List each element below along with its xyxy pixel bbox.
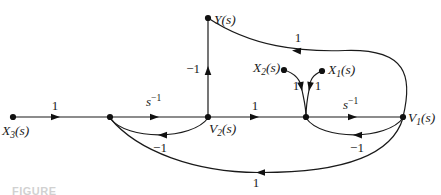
label-x1: X1(s) (327, 62, 356, 79)
node-v2 (205, 114, 211, 120)
node-x1 (319, 68, 325, 74)
gain-node1-to-v2: s−1 (146, 93, 161, 109)
gain-x2-to-node2: 1 (293, 78, 300, 93)
node-2 (303, 114, 309, 120)
gain-v2-to-node1: −1 (153, 140, 167, 155)
branch-v1-to-node2-curve (306, 118, 403, 135)
label-x2: X2(s) (252, 60, 281, 77)
branch-x1-to-node2-stem (306, 90, 309, 117)
gain-v1-to-node1: 1 (253, 175, 260, 190)
label-y: Y(s) (214, 12, 236, 27)
gain-v2-to-node2: 1 (252, 98, 259, 113)
label-v1: V1(s) (408, 110, 436, 127)
signal-flow-graph-canvas: X3(s) Y(s) V2(s) V1(s) X2(s) X1(s) 1 s−1… (0, 0, 441, 195)
node-1 (107, 114, 113, 120)
arrowhead-node1-to-v2 (150, 114, 159, 121)
arrowhead-node2-to-v1 (348, 114, 357, 121)
gain-x3-to-node1: 1 (52, 98, 59, 113)
arrowhead-v2-to-node1 (158, 132, 167, 139)
signal-flow-graph-figure: X3(s) Y(s) V2(s) V1(s) X2(s) X1(s) 1 s−1… (0, 0, 441, 195)
node-x2 (281, 67, 287, 73)
gain-v1-to-node2: −1 (350, 140, 364, 155)
gain-v2-to-y: −1 (186, 61, 200, 76)
gain-v1-to-y: 1 (295, 30, 302, 45)
arrowhead-v1-to-node2 (353, 132, 362, 139)
label-v2: V2(s) (209, 121, 237, 138)
gain-x1-to-node2: 1 (315, 78, 322, 93)
arrowhead-v2-to-node2 (250, 114, 259, 121)
arrowhead-v2-to-y (205, 66, 212, 75)
label-x3: X3(s) (1, 123, 30, 140)
arrowhead-x3-to-node1 (51, 114, 60, 121)
figure-caption: FIGURE (12, 185, 57, 195)
branch-x2-to-node2-stem (302, 90, 306, 117)
node-v1 (400, 114, 406, 120)
arrowhead-x1-to-node2 (306, 82, 314, 92)
node-x3 (10, 114, 16, 120)
gain-node2-to-v1: s−1 (343, 96, 358, 112)
node-y (205, 15, 211, 21)
